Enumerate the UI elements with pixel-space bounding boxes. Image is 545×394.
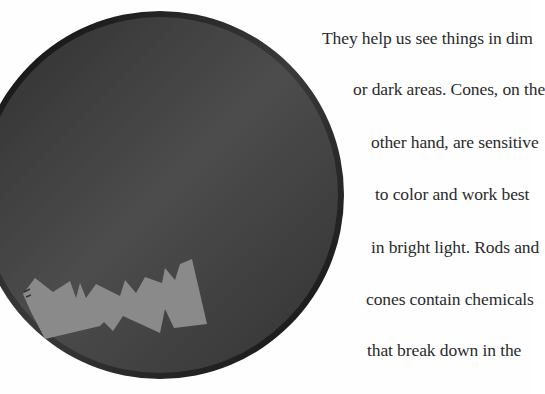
text-line-6: cones contain chemicals (366, 289, 534, 309)
text-line-1: They help us see things in dim (322, 28, 533, 48)
text-line-4: to color and work best (375, 184, 529, 204)
text-line-7: that break down in the (367, 340, 521, 360)
text-line-2: or dark areas. Cones, on the (353, 79, 545, 99)
text-line-5: in bright light. Rods and (371, 237, 539, 257)
text-line-3: other hand, are sensitive (371, 132, 539, 152)
